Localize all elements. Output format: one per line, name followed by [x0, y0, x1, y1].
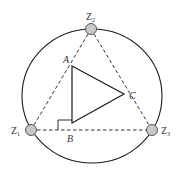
node-z3	[147, 125, 158, 136]
edge-z1-z2	[31, 29, 91, 130]
label-z3: Z3	[161, 125, 170, 137]
dashed-triangle	[31, 29, 152, 130]
label-b: B	[67, 133, 73, 144]
node-z2	[86, 24, 97, 35]
geometry-diagram: Z2 Z1 Z3 A C B	[0, 0, 181, 174]
label-z1: Z1	[11, 125, 20, 137]
outer-circle	[22, 29, 162, 163]
label-z2: Z2	[86, 11, 95, 23]
node-z1	[26, 125, 37, 136]
label-c: C	[129, 90, 136, 101]
inner-triangle	[72, 66, 124, 123]
edge-z2-z3	[91, 29, 152, 130]
right-angle-marker	[58, 120, 72, 130]
label-a: A	[62, 54, 70, 65]
